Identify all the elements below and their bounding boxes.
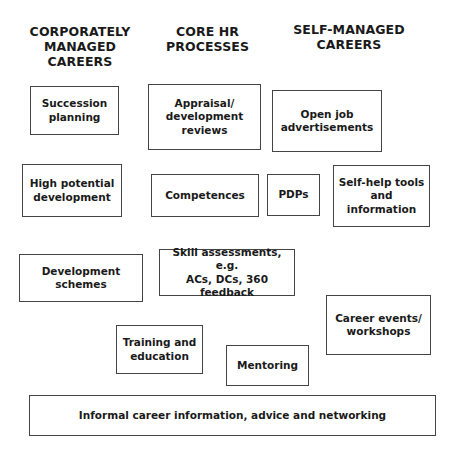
box-competences: Competences	[151, 174, 259, 217]
box-skill-assessments: Skill assessments, e.g. ACs, DCs, 360 fe…	[159, 249, 295, 296]
box-career-events-workshops: Career events/ workshops	[326, 295, 431, 355]
box-training-and-education: Training and education	[116, 325, 203, 374]
box-development-schemes: Development schemes	[19, 254, 143, 302]
box-informal-career-information: Informal career information, advice and …	[29, 395, 436, 436]
box-succession-planning: Succession planning	[30, 86, 119, 135]
header-corporately-managed-careers: CORPORATELY MANAGED CAREERS	[20, 24, 140, 69]
header-self-managed-careers: SELF-MANAGED CAREERS	[288, 22, 410, 52]
box-appraisal-development-reviews: Appraisal/ development reviews	[148, 84, 261, 150]
header-core-hr-processes: CORE HR PROCESSES	[150, 24, 265, 54]
box-high-potential-development: High potential development	[22, 164, 122, 217]
box-mentoring: Mentoring	[226, 345, 309, 386]
box-open-job-advertisements: Open job advertisements	[272, 90, 382, 152]
box-pdps: PDPs	[267, 174, 320, 216]
box-self-help-tools: Self-help tools and information	[333, 165, 430, 227]
